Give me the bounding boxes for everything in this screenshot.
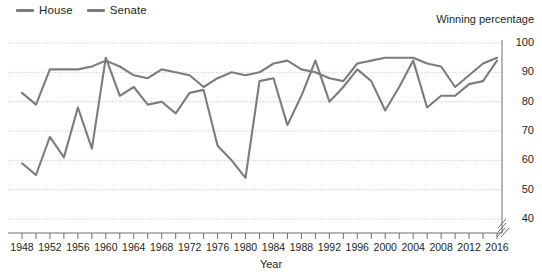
x-axis-title: Year <box>0 259 542 270</box>
chart-svg <box>0 0 542 280</box>
x-tick-label-1956: 1956 <box>66 242 89 253</box>
y-tick-label-70: 70 <box>508 125 534 136</box>
y-tick-label-90: 90 <box>508 66 534 77</box>
y-tick-label-50: 50 <box>508 184 534 195</box>
chart-root: House Senate Winning percentage 10090807… <box>0 0 542 280</box>
x-tick-label-2008: 2008 <box>429 242 452 253</box>
x-tick-label-1964: 1964 <box>122 242 145 253</box>
x-tick-label-1972: 1972 <box>178 242 201 253</box>
data-series-group <box>22 58 497 178</box>
x-tick-label-1980: 1980 <box>234 242 257 253</box>
y-tick-label-100: 100 <box>508 37 534 48</box>
x-tick-label-1952: 1952 <box>38 242 61 253</box>
plot-area: 100908070605040 194819521956196019641968… <box>0 0 542 280</box>
x-tick-label-2016: 2016 <box>485 242 508 253</box>
x-tick-label-1948: 1948 <box>10 242 33 253</box>
x-tick-label-2004: 2004 <box>401 242 424 253</box>
x-tick-label-1960: 1960 <box>94 242 117 253</box>
x-tick-label-2000: 2000 <box>374 242 397 253</box>
x-tick-label-1992: 1992 <box>318 242 341 253</box>
y-tick-label-80: 80 <box>508 96 534 107</box>
series-line-senate <box>22 58 497 178</box>
x-tick-label-1984: 1984 <box>262 242 285 253</box>
axis-ticks <box>22 233 497 239</box>
axis-lines <box>8 40 509 237</box>
x-tick-label-1996: 1996 <box>346 242 369 253</box>
x-tick-label-1968: 1968 <box>150 242 173 253</box>
y-tick-label-60: 60 <box>508 154 534 165</box>
x-tick-label-1976: 1976 <box>206 242 229 253</box>
x-tick-label-1988: 1988 <box>290 242 313 253</box>
x-tick-label-2012: 2012 <box>457 242 480 253</box>
y-tick-label-40: 40 <box>508 213 534 224</box>
